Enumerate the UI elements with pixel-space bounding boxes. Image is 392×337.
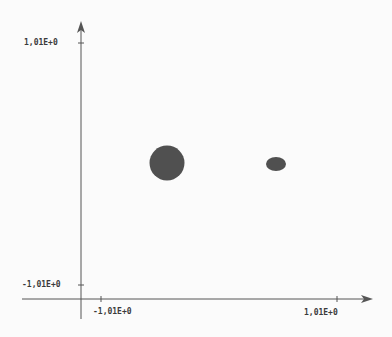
data-point-large — [150, 146, 185, 181]
y-tick-label-top: 1,01E+0 — [24, 38, 58, 47]
data-point-small — [266, 157, 286, 171]
y-tick-label-bottom: -1,01E+0 — [22, 280, 61, 289]
x-tick-label-right: 1,01E+0 — [304, 308, 338, 317]
x-tick-label-left: -1,01E+0 — [93, 307, 132, 316]
